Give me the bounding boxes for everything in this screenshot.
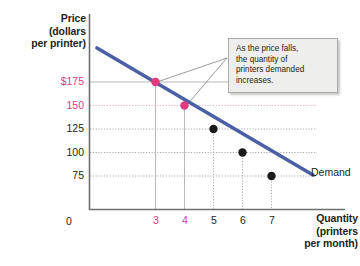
x-tick-label-3: 3 xyxy=(147,215,165,226)
y-tick-label-100: 100 xyxy=(38,147,84,158)
callout-line-4: increases. xyxy=(236,76,331,87)
demand-curve-figure: Price (dollars per printer) Quantity (pr… xyxy=(0,0,360,266)
y-axis-title-line-1: Price xyxy=(2,12,86,25)
callout-line-3: printers demanded xyxy=(236,65,331,76)
y-tick-label-150: 150 xyxy=(38,100,84,111)
y-axis-title-line-3: per printer) xyxy=(2,37,86,50)
data-point-4-150[interactable] xyxy=(180,101,188,109)
origin-label: 0 xyxy=(60,215,78,227)
data-point-3-175[interactable] xyxy=(151,78,159,86)
y-axis-title-line-2: (dollars xyxy=(2,25,86,38)
callout-line-1: As the price falls, xyxy=(236,44,331,55)
x-axis-title-line-1: Quantity xyxy=(286,212,358,225)
y-axis-title: Price (dollars per printer) xyxy=(2,12,86,50)
price-falls-callout: As the price falls, the quantity of prin… xyxy=(228,38,338,93)
demand-curve-label: Demand xyxy=(311,166,351,178)
data-point-5-125[interactable] xyxy=(209,125,217,133)
x-axis-title-line-2: (printers xyxy=(286,225,358,238)
x-tick-label-5: 5 xyxy=(205,215,223,226)
y-tick-label-175: $175 xyxy=(38,76,84,87)
data-point-6-100[interactable] xyxy=(238,148,246,156)
y-tick-label-75: 75 xyxy=(38,170,84,181)
data-point-7-75[interactable] xyxy=(267,172,275,180)
x-axis-title-line-3: per month) xyxy=(286,237,358,250)
x-tick-label-7: 7 xyxy=(263,215,281,226)
x-tick-label-6: 6 xyxy=(234,215,252,226)
callout-line-2: the quantity of xyxy=(236,55,331,66)
y-tick-label-125: 125 xyxy=(38,123,84,134)
x-axis-title: Quantity (printers per month) xyxy=(286,212,358,250)
x-tick-label-4: 4 xyxy=(176,215,194,226)
